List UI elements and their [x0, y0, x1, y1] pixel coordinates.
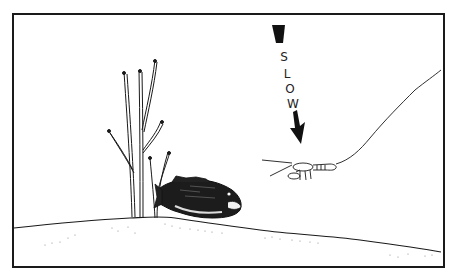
fishing-scene	[0, 0, 454, 276]
lake-bottom	[14, 217, 441, 258]
fishing-line	[336, 70, 441, 164]
bass-fish	[154, 176, 241, 218]
arrow-down-icon	[290, 110, 305, 144]
slow-letter-o: O	[283, 82, 297, 96]
crayfish-lure	[262, 160, 336, 180]
arrow-tail-block-icon	[272, 25, 285, 43]
slow-letter-w: W	[286, 97, 300, 111]
slow-letter-s: S	[277, 50, 291, 64]
slow-letter-l: L	[280, 67, 294, 81]
